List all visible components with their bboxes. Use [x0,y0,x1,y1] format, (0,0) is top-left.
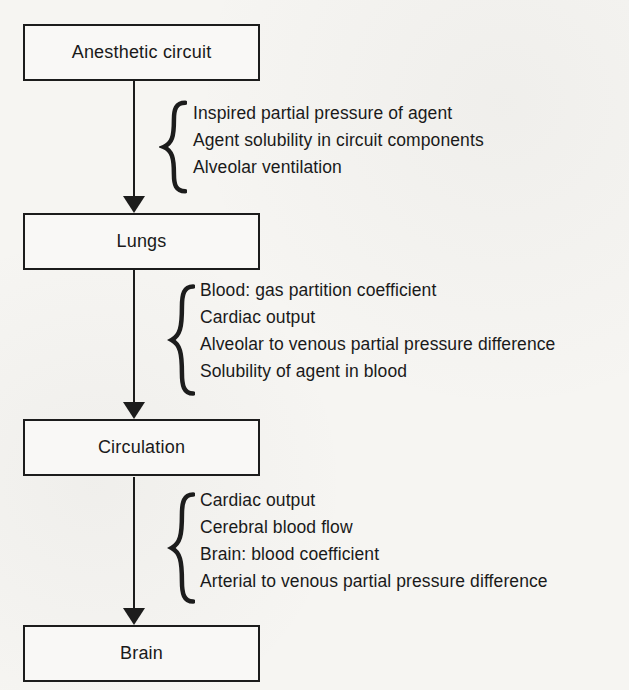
node-anesthetic-circuit: Anesthetic circuit [23,24,260,81]
factor-item: Cerebral blood flow [200,514,548,541]
arrowhead-icon [123,608,145,625]
arrowhead-icon [123,196,145,213]
node-label: Lungs [116,231,166,252]
flow-arrow-lungs-to-circulation [133,270,135,403]
left-brace-icon [159,100,187,194]
factor-item: Solubility of agent in blood [200,358,555,385]
node-circulation: Circulation [23,419,260,476]
node-label: Anesthetic circuit [72,42,212,63]
factor-item: Cardiac output [200,304,555,331]
factor-list-lungs-to-circulation: Blood: gas partition coefficient Cardiac… [200,277,555,385]
factor-item: Blood: gas partition coefficient [200,277,555,304]
factor-item: Arterial to venous partial pressure diff… [200,568,548,595]
factor-list-circuit-to-lungs: Inspired partial pressure of agent Agent… [193,100,484,181]
flow-arrow-circuit-to-lungs [133,81,135,197]
node-label: Circulation [98,437,185,458]
factor-item: Brain: blood coefficient [200,541,548,568]
factor-item: Alveolar ventilation [193,154,484,181]
arrowhead-icon [123,402,145,419]
left-brace-icon [167,283,195,397]
left-brace-icon [167,491,195,605]
factor-list-circulation-to-brain: Cardiac output Cerebral blood flow Brain… [200,487,548,595]
node-lungs: Lungs [23,213,260,270]
factor-item: Cardiac output [200,487,548,514]
flow-arrow-circulation-to-brain [133,477,135,609]
node-label: Brain [120,643,163,664]
factor-item: Inspired partial pressure of agent [193,100,484,127]
diagram-canvas: Anesthetic circuit Lungs Circulation Bra… [0,0,629,690]
factor-item: Alveolar to venous partial pressure diff… [200,331,555,358]
factor-item: Agent solubility in circuit components [193,127,484,154]
node-brain: Brain [23,625,260,682]
